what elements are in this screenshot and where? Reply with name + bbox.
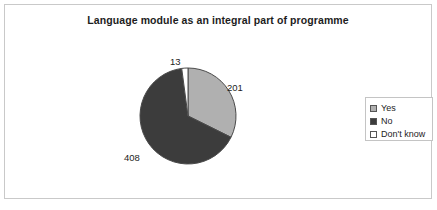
legend-swatch-dont-know (370, 131, 377, 138)
legend-swatch-no (370, 118, 377, 125)
pie-label-no: 408 (124, 152, 140, 163)
legend-label-yes: Yes (381, 104, 396, 113)
legend-label-dont-know: Don't know (381, 130, 425, 139)
legend-label-no: No (381, 117, 393, 126)
legend-item-no[interactable]: No (370, 115, 432, 127)
legend-item-yes[interactable]: Yes (370, 102, 432, 114)
chart-frame: Language module as an integral part of p… (4, 4, 432, 199)
legend-swatch-yes (370, 105, 377, 112)
pie-label-dont-know: 13 (170, 56, 181, 67)
legend: Yes No Don't know (365, 97, 433, 141)
pie-label-yes: 201 (227, 82, 243, 93)
legend-item-dont-know[interactable]: Don't know (370, 128, 432, 140)
